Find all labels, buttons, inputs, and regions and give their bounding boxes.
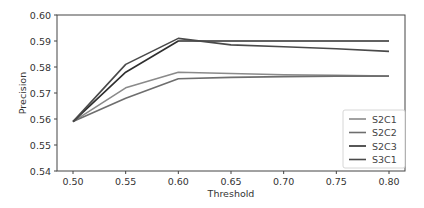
- y-tick-label: 0.55: [30, 140, 51, 151]
- x-tick-label: 0.55: [115, 176, 136, 187]
- y-tick-label: 0.58: [30, 62, 51, 73]
- legend: S2C1S2C2S2C3S3C1: [343, 110, 405, 168]
- x-tick-label: 0.60: [168, 176, 189, 187]
- x-axis-label: Threshold: [207, 188, 255, 199]
- y-tick-label: 0.60: [30, 10, 51, 21]
- y-axis-ticks: 0.540.550.560.570.580.590.60: [30, 10, 57, 177]
- x-tick-label: 0.70: [273, 176, 294, 187]
- y-axis-label: Precision: [17, 72, 28, 114]
- legend-label: S2C2: [372, 127, 397, 138]
- y-tick-label: 0.54: [30, 166, 51, 177]
- x-tick-label: 0.75: [326, 176, 347, 187]
- legend-label: S2C1: [372, 114, 397, 125]
- x-tick-label: 0.80: [378, 176, 399, 187]
- y-tick-label: 0.56: [30, 114, 51, 125]
- legend-label: S2C3: [372, 141, 397, 152]
- x-tick-label: 0.65: [220, 176, 241, 187]
- x-axis-ticks: 0.500.550.600.650.700.750.80: [62, 171, 399, 187]
- x-tick-label: 0.50: [62, 176, 83, 187]
- legend-label: S3C1: [372, 154, 397, 165]
- y-tick-label: 0.59: [30, 36, 51, 47]
- y-tick-label: 0.57: [30, 88, 51, 99]
- line-chart: 0.540.550.560.570.580.590.60 0.500.550.6…: [0, 0, 424, 208]
